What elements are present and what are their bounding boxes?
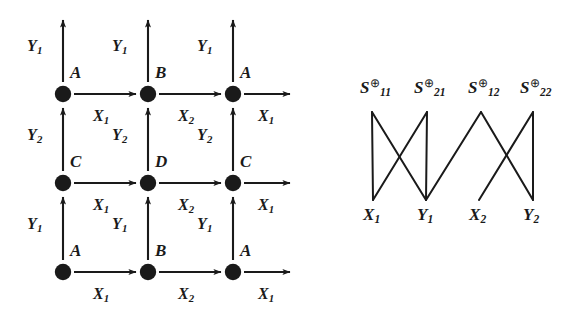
grid-xedge-r0c1: X2 — [178, 108, 194, 126]
grid-xedge-r1c2: X1 — [258, 197, 274, 215]
bipartite-bottom-node-x1: X1 — [363, 206, 380, 226]
grid-yedge-r1c0: Y2 — [27, 127, 42, 145]
figure-canvas: A B A C D C A B A Y1 Y1 Y1 Y2 Y2 Y2 Y1 Y… — [0, 0, 575, 315]
grid-node-label-r1c2: C — [240, 153, 251, 170]
bipartite-bottom-node-y2: Y2 — [523, 206, 539, 226]
grid-yedge-r1c2: Y2 — [197, 127, 212, 145]
edge-s11-x1 — [372, 112, 373, 200]
bipartite-top-node-s11: S⊕11 — [360, 78, 391, 99]
grid-xedge-r2c1: X2 — [178, 286, 194, 304]
bipartite-top-node-s22: S⊕22 — [520, 78, 552, 99]
grid-xedge-r1c0: X1 — [93, 197, 109, 215]
grid-node-label-r1c1: D — [155, 153, 167, 170]
grid-yedge-r2c0: Y1 — [27, 216, 42, 234]
grid-node-label-r2c0: A — [70, 242, 81, 259]
grid-node-label-r0c1: B — [155, 64, 166, 81]
edge-s21-y1 — [426, 112, 427, 200]
grid-node-label-r0c2: A — [240, 64, 251, 81]
grid-xedge-r1c1: X2 — [178, 197, 194, 215]
grid-node-label-r1c0: C — [70, 153, 81, 170]
bipartite-bottom-node-y1: Y1 — [417, 206, 433, 226]
bipartite-top-node-s12: S⊕12 — [468, 78, 500, 99]
grid-yedge-r2c1: Y1 — [112, 216, 127, 234]
bipartite-bottom-node-x2: X2 — [469, 206, 486, 226]
grid-yedge-r0c0: Y1 — [27, 38, 42, 56]
grid-xedge-r2c2: X1 — [258, 286, 274, 304]
grid-node-label-r0c0: A — [70, 64, 81, 81]
grid-yedge-r1c1: Y2 — [112, 127, 127, 145]
grid-xedge-r0c0: X1 — [93, 108, 109, 126]
grid-xedge-r2c0: X1 — [93, 286, 109, 304]
grid-node-label-r2c2: A — [240, 242, 251, 259]
grid-xedge-r0c2: X1 — [258, 108, 274, 126]
bipartite-top-node-s21: S⊕21 — [414, 78, 446, 99]
edge-s12-x2 — [426, 112, 481, 200]
grid-yedge-r0c2: Y1 — [197, 38, 212, 56]
grid-yedge-r0c1: Y1 — [112, 38, 127, 56]
figure-vector-layer — [0, 0, 575, 315]
grid-node-label-r2c1: B — [155, 242, 166, 259]
grid-yedge-r2c2: Y1 — [197, 216, 212, 234]
bipartite-edges — [372, 112, 533, 200]
